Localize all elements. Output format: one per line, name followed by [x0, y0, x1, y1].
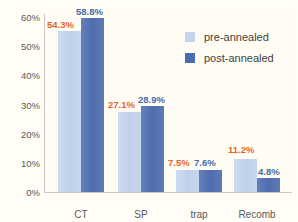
value-label-post-sp: 28.9%	[138, 94, 165, 105]
value-label-pre-sp: 27.1%	[108, 99, 135, 110]
legend-swatch-icon-post	[185, 53, 195, 63]
bar-pre-trap	[176, 170, 199, 192]
bar-pre-sp	[118, 112, 141, 192]
y-tick-label: 40%	[6, 70, 40, 81]
bar-post-ct	[81, 18, 104, 192]
legend-item-post-annealed: post-annealed	[185, 47, 274, 68]
value-label-post-trap: 7.6%	[194, 157, 216, 168]
value-label-pre-trap: 7.5%	[168, 157, 190, 168]
y-tick-label: 10%	[6, 158, 40, 169]
value-label-pre-ct: 54.3%	[47, 19, 74, 30]
x-tick-label-recomb: Recomb	[232, 209, 282, 220]
y-tick-label: 20%	[6, 129, 40, 140]
value-label-post-ct: 58.8%	[76, 6, 103, 17]
x-tick-label-ct: CT	[56, 209, 106, 220]
bar-pre-recomb	[234, 159, 257, 192]
y-axis-ticks: 60% 50% 40% 30% 20% 10% 0%	[0, 0, 40, 222]
y-tick-label: 0%	[6, 187, 40, 198]
x-axis-line	[44, 192, 292, 193]
bar-pre-ct	[58, 31, 81, 192]
legend-swatch-icon-pre	[185, 32, 195, 42]
bar-post-trap	[199, 170, 222, 193]
bar-post-sp	[141, 106, 164, 192]
x-tick-label-trap: trap	[174, 209, 224, 220]
value-label-pre-recomb: 11.2%	[228, 144, 254, 155]
y-tick-label: 50%	[6, 41, 40, 52]
value-label-post-recomb: 4.8%	[258, 166, 280, 177]
chart-legend: pre-annealed post-annealed	[185, 26, 274, 68]
bar-post-recomb	[257, 178, 280, 192]
y-axis-line	[44, 14, 45, 193]
y-tick-label: 60%	[6, 12, 40, 23]
x-tick-label-sp: SP	[116, 209, 166, 220]
y-tick-label: 30%	[6, 100, 40, 111]
legend-item-pre-annealed: pre-annealed	[185, 26, 274, 47]
bar-chart: 60% 50% 40% 30% 20% 10% 0% 54.3% 58.8% 2…	[0, 0, 298, 222]
legend-label-post: post-annealed	[204, 52, 274, 64]
legend-label-pre: pre-annealed	[204, 31, 269, 43]
